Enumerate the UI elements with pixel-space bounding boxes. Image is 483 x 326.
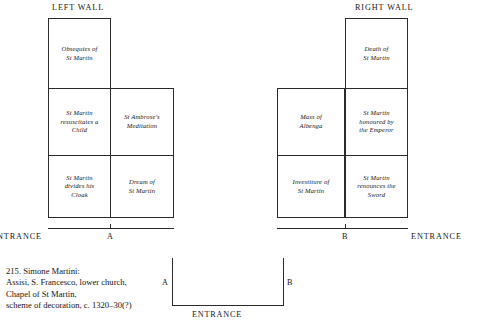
scene-label: St Martin honoured by the Emperor	[359, 109, 394, 135]
figure-caption: 215. Simone Martini: Assisi, S. Francesc…	[6, 266, 171, 312]
plan-entrance-label: ENTRANCE	[192, 310, 242, 319]
caption-line: scheme of decoration, c. 1320–30(?)	[6, 300, 171, 311]
left-wall-point-a-tick	[110, 224, 111, 229]
chapel-ground-plan: A B ENTRANCE	[150, 258, 350, 326]
left-wall-heading: LEFT WALL	[52, 3, 104, 12]
left-entrance-label: NTRANCE	[0, 232, 42, 241]
plan-entrance-wall-line	[172, 305, 284, 306]
figure-diagram: LEFT WALL RIGHT WALL Obsequies of St Mar…	[0, 0, 483, 326]
scene-label: Investiture of St Martin	[293, 178, 330, 195]
scene-box-st-ambroses-meditation: St Ambrose's Meditation	[110, 88, 174, 156]
scene-box-mass-of-albenga: Mass of Albenga	[277, 88, 345, 156]
scene-box-st-martin-divides-his-cloak: St Martin divides his Cloak	[48, 155, 111, 218]
scene-label: Mass of Albenga	[299, 113, 322, 130]
scene-box-st-martin-resuscitates-a-child: St Martin resuscitates a Child	[48, 88, 111, 156]
right-wall-point-b-tick	[345, 224, 346, 229]
scene-box-investiture-of-st-martin: Investiture of St Martin	[277, 155, 345, 218]
scene-label: St Martin resuscitates a Child	[61, 109, 99, 135]
plan-left-wall-line	[172, 258, 173, 306]
scene-label: Dream of St Martin	[129, 178, 155, 195]
plan-point-a-label: A	[162, 278, 169, 287]
scene-box-st-martin-honoured-by-the-emperor: St Martin honoured by the Emperor	[345, 88, 408, 156]
right-wall-heading: RIGHT WALL	[355, 3, 414, 12]
caption-line: 215. Simone Martini:	[6, 266, 171, 277]
scene-box-dream-of-st-martin: Dream of St Martin	[110, 155, 174, 218]
scene-box-st-martin-renounces-the-sword: St Martin renounces the Sword	[345, 155, 408, 218]
scene-box-death-of-st-martin: Death of St Martin	[345, 18, 408, 89]
scene-label: St Ambrose's Meditation	[124, 113, 160, 130]
left-wall-ground-rule	[48, 228, 174, 229]
scene-label: Death of St Martin	[363, 45, 389, 62]
right-wall-ground-rule	[277, 228, 408, 229]
right-entrance-label: ENTRANCE	[411, 232, 462, 241]
scene-label: Obsequies of St Martin	[61, 45, 97, 62]
plan-right-wall-line	[283, 258, 284, 306]
plan-point-b-label: B	[287, 278, 293, 287]
caption-line: Chapel of St Martin,	[6, 289, 171, 300]
scene-label: St Martin divides his Cloak	[65, 174, 95, 200]
right-wall-point-b-label: B	[342, 232, 348, 241]
left-wall-point-a-label: A	[107, 232, 114, 241]
caption-line: Assisi, S. Francesco, lower church,	[6, 277, 171, 288]
scene-box-obsequies-of-st-martin: Obsequies of St Martin	[48, 18, 111, 89]
scene-label: St Martin renounces the Sword	[357, 174, 396, 200]
